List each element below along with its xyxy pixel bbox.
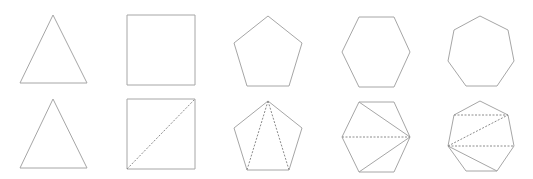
row-plain-polygons <box>20 15 514 87</box>
heptagon-dashed-diagonal-1 <box>448 115 508 146</box>
row-triangulated-polygons <box>20 99 514 172</box>
pentagon-outline <box>234 16 302 86</box>
pentagon-triangulated <box>234 101 302 170</box>
heptagon-plain <box>448 16 514 86</box>
heptagon-outline <box>448 101 514 171</box>
polygon-triangulation-diagram <box>0 0 533 179</box>
heptagon-solid-diagonal-0 <box>448 146 497 171</box>
square-plain <box>127 15 195 85</box>
heptagon-outline <box>448 16 514 86</box>
square-outline <box>127 15 195 85</box>
square-dashed-diagonal-0 <box>127 99 195 169</box>
square-triangulated <box>127 99 195 169</box>
pentagon-dashed-diagonal-1 <box>268 101 289 170</box>
triangle-outline <box>20 15 87 83</box>
pentagon-dashed-diagonal-0 <box>247 101 268 170</box>
triangle-triangulated <box>20 99 87 168</box>
hexagon-plain <box>342 17 410 87</box>
triangle-outline <box>20 99 87 168</box>
hexagon-outline <box>342 17 410 87</box>
hexagon-triangulated <box>342 102 410 172</box>
pentagon-plain <box>234 16 302 86</box>
pentagon-outline <box>234 101 302 170</box>
triangle-plain <box>20 15 87 83</box>
heptagon-triangulated <box>448 101 514 171</box>
